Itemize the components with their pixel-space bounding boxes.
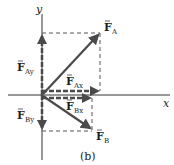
label-f-a: F A	[104, 21, 118, 36]
label-f-ay-symbol: F	[17, 61, 25, 74]
force-vector-diagram: y x F A F Ay F Ax F Bx F By	[0, 0, 174, 165]
label-f-ax-symbol: F	[66, 75, 74, 88]
figure-caption: (b)	[80, 150, 96, 163]
label-f-b-sub: B	[104, 137, 109, 145]
label-f-by-sub: By	[25, 116, 34, 124]
label-f-bx-symbol: F	[66, 100, 74, 113]
label-f-b-symbol: F	[96, 130, 104, 143]
label-f-a-symbol: F	[104, 21, 112, 34]
label-f-by: F By	[17, 109, 34, 124]
labels: y x F A F Ay F Ax F Bx F By	[17, 3, 170, 163]
y-axis-label: y	[35, 3, 43, 16]
label-f-a-sub: A	[111, 28, 118, 36]
label-f-ax-sub: Ax	[73, 82, 83, 90]
label-f-bx-sub: Bx	[74, 107, 83, 115]
label-f-bx: F Bx	[66, 100, 83, 115]
label-f-by-symbol: F	[17, 109, 25, 122]
label-f-ay-sub: Ay	[24, 68, 34, 76]
label-f-ax: F Ax	[66, 75, 83, 90]
label-f-ay: F Ay	[17, 61, 34, 76]
axes	[8, 14, 170, 160]
x-axis-label: x	[163, 97, 170, 110]
label-f-b: F B	[96, 130, 109, 145]
